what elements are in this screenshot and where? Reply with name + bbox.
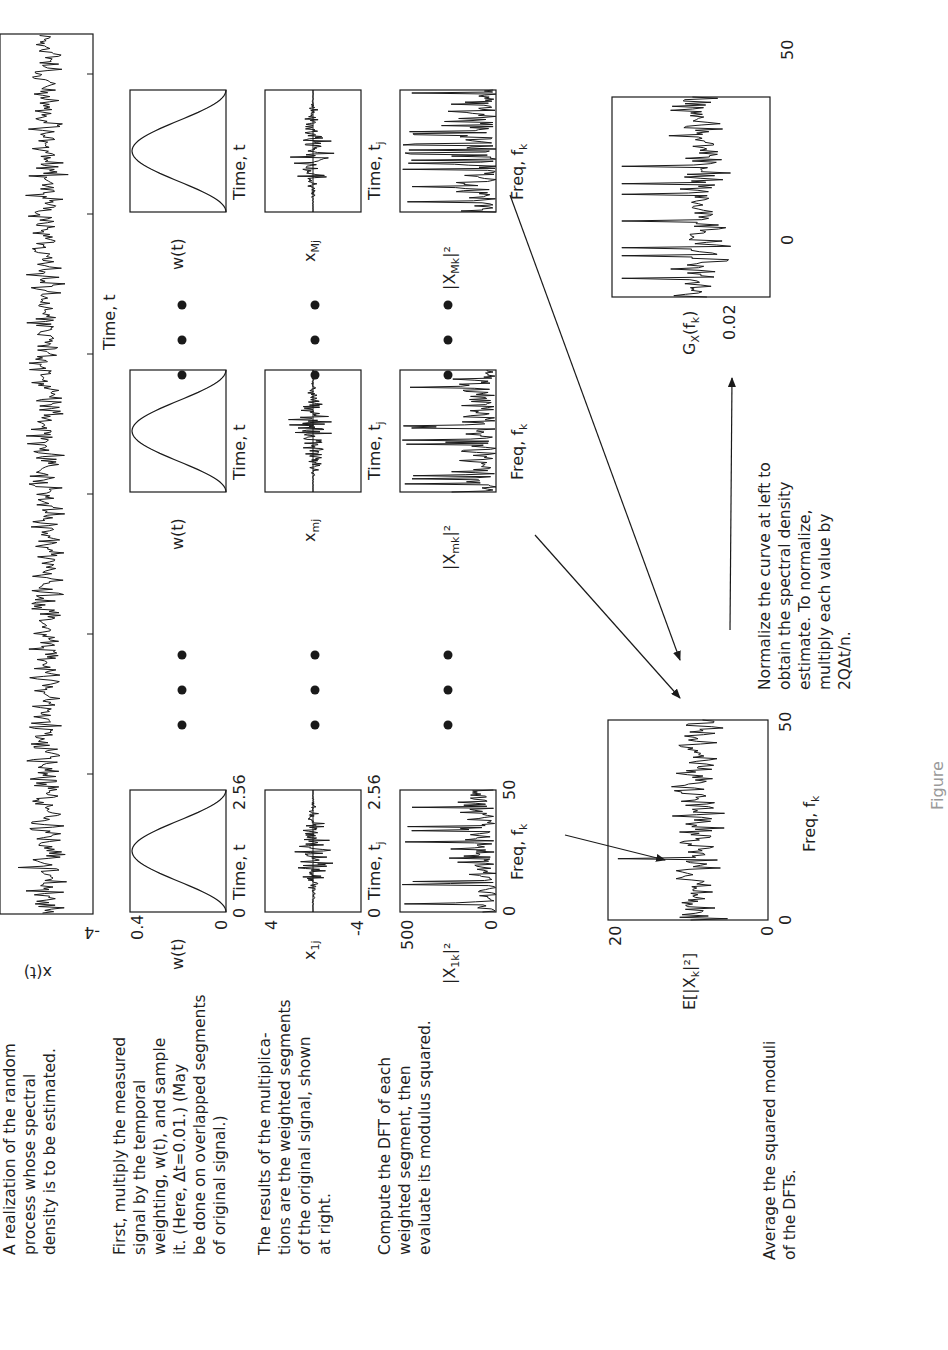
avg-xtick-right: 50 bbox=[776, 712, 795, 732]
realization-signal-plot bbox=[0, 34, 93, 914]
x2-xlabel: Time, tj bbox=[365, 421, 387, 480]
flow-arrows bbox=[510, 195, 732, 860]
w1-ylabel: w(t) bbox=[168, 938, 187, 970]
x1-ylabel: x1j bbox=[300, 940, 322, 960]
x3-ylabel: xMj bbox=[300, 240, 322, 262]
x2-ylabel: xmj bbox=[300, 519, 322, 542]
figure-caption-partial: Figure bbox=[928, 761, 947, 810]
w2-xlabel: Time, t bbox=[230, 424, 249, 480]
s3-xlabel: Freq, fk bbox=[508, 144, 530, 200]
w1-xtick-left: 0 bbox=[230, 908, 249, 918]
x1-xtick-right: 2.56 bbox=[365, 774, 384, 810]
segment-last-plots bbox=[130, 90, 496, 212]
x1-ytick-bottom: -4 bbox=[348, 920, 367, 936]
est-ylabel: GX(fk) bbox=[680, 311, 702, 355]
avg-xlabel: Freq, fk bbox=[800, 796, 822, 852]
spectral-estimate-plot bbox=[612, 97, 770, 297]
s1-xtick-right: 50 bbox=[500, 780, 519, 800]
avg-ylabel: E[|Xk|²] bbox=[680, 953, 702, 1010]
avg-ytick-top: 20 bbox=[606, 926, 625, 946]
segment-first-plots bbox=[130, 790, 496, 912]
signal-xlabel: Time, t bbox=[100, 294, 119, 350]
average-spectrum-plot bbox=[608, 720, 768, 920]
w1-xlabel: Time, t bbox=[230, 844, 249, 900]
figure-stage: A realization of the random process whos… bbox=[0, 0, 948, 1350]
w1-ytick-top: 0.4 bbox=[128, 915, 147, 940]
w3-xlabel: Time, t bbox=[230, 144, 249, 200]
ellipsis-dots bbox=[178, 301, 453, 730]
s1-ytick-bottom: 0 bbox=[482, 920, 501, 930]
signal-ytick-bottom: -4 bbox=[84, 923, 100, 942]
s1-xlabel: Freq, fk bbox=[508, 824, 530, 880]
w3-ylabel: w(t) bbox=[168, 238, 187, 270]
x1-xtick-left: 0 bbox=[365, 908, 384, 918]
w2-ylabel: w(t) bbox=[168, 518, 187, 550]
s1-ytick-top: 500 bbox=[398, 919, 417, 950]
est-xtick-right: 50 bbox=[778, 40, 797, 60]
figure-graphics bbox=[0, 0, 948, 1350]
avg-ytick-bottom: 0 bbox=[758, 926, 777, 936]
w1-xtick-right: 2.56 bbox=[230, 774, 249, 810]
s2-xlabel: Freq, fk bbox=[508, 424, 530, 480]
s2-ylabel: |Xmk|² bbox=[440, 525, 462, 570]
est-ytick-top: 0.02 bbox=[720, 304, 739, 340]
s3-ylabel: |XMk|² bbox=[440, 246, 462, 290]
x1-ytick-top: 4 bbox=[262, 920, 281, 930]
segment-middle-plots bbox=[130, 370, 496, 492]
x1-xlabel: Time, tj bbox=[365, 841, 387, 900]
figure-canvas: A realization of the random process whos… bbox=[0, 0, 948, 1350]
avg-xtick-left: 0 bbox=[776, 915, 795, 925]
w1-ytick-bottom: 0 bbox=[212, 920, 231, 930]
signal-ylabel: x(t) bbox=[24, 963, 52, 982]
s1-ylabel: |X1k|² bbox=[440, 942, 462, 984]
est-xtick-left: 0 bbox=[778, 235, 797, 245]
s1-xtick-left: 0 bbox=[500, 906, 519, 916]
x3-xlabel: Time, tj bbox=[365, 141, 387, 200]
